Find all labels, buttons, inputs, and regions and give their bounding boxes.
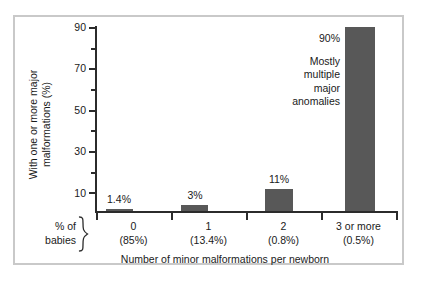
x-tick-boundary-1 (171, 213, 173, 220)
category-name-0: 0 (96, 220, 171, 234)
bars-layer: 1.4% 3% 11% (0, 0, 421, 212)
bar-2-minor-malformations[interactable] (265, 189, 293, 212)
x-tick-boundary-0 (96, 213, 98, 220)
bar-value-label-3: 90% (232, 32, 340, 46)
curly-brace-icon (78, 216, 90, 252)
percent-of-babies-line-2: babies (24, 234, 76, 248)
category-name-1: 1 (171, 220, 246, 234)
category-subcaption-1: (13.4%) (171, 234, 246, 248)
category-label-1: 1 (13.4%) (171, 220, 246, 247)
bar-value-label-2: 11% (249, 174, 309, 185)
bar-value-label-0: 1.4% (89, 194, 149, 205)
category-label-0: 0 (85%) (96, 220, 171, 247)
tall-bar-annotation: 90% Mostly multiple major anomalies (232, 32, 340, 109)
category-subcaption-2: (0.8%) (246, 234, 321, 248)
annotation-line-1: Mostly (232, 55, 340, 69)
x-tick-boundary-3 (321, 213, 323, 220)
bar-value-label-1: 3% (165, 190, 225, 201)
category-subcaption-3: (0.5%) (321, 234, 396, 248)
percent-of-babies-line-1: % of (24, 220, 76, 234)
category-name-2: 2 (246, 220, 321, 234)
category-label-3: 3 or more (0.5%) (321, 220, 396, 247)
bar-3-or-more-minor-malformations[interactable] (345, 27, 375, 212)
category-labels: 0 (85%) 1 (13.4%) 2 (0.8%) 3 or more (0.… (96, 220, 398, 252)
annotation-line-2: multiple (232, 68, 340, 82)
x-tick-boundary-2 (246, 213, 248, 220)
x-tick-boundary-4 (396, 213, 398, 220)
category-subcaption-0: (85%) (96, 234, 171, 248)
x-axis-title: Number of minor malformations per newbor… (60, 253, 390, 265)
annotation-line-3: major (232, 82, 340, 96)
category-name-3: 3 or more (321, 220, 396, 234)
percent-of-babies-label: % of babies (24, 220, 76, 247)
category-label-2: 2 (0.8%) (246, 220, 321, 247)
annotation-line-4: anomalies (232, 95, 340, 109)
